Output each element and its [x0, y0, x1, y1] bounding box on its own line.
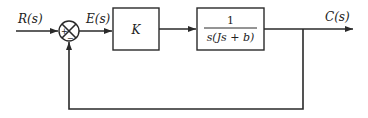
- error-signal: E(s): [79, 12, 112, 31]
- plant-numerator: 1: [227, 14, 234, 27]
- controller-block: K: [113, 8, 159, 50]
- error-label: E(s): [85, 12, 111, 26]
- block-diagram: R(s) + − E(s) K 1 s(Js + b) C(s): [0, 0, 368, 118]
- summing-junction: + −: [59, 21, 79, 43]
- output-label: C(s): [325, 10, 350, 24]
- controller-label: K: [131, 23, 142, 37]
- plant-block: 1 s(Js + b): [197, 8, 264, 50]
- output-signal: C(s): [264, 10, 353, 29]
- feedback-line: [69, 29, 303, 109]
- input-signal: R(s): [16, 12, 58, 31]
- plant-denominator: s(Js + b): [207, 31, 255, 44]
- minus-sign: −: [67, 34, 74, 43]
- feedback-path: [69, 29, 303, 109]
- input-label: R(s): [17, 12, 43, 26]
